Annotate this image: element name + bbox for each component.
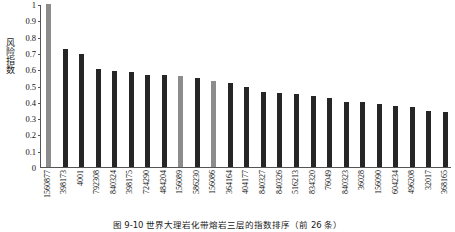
bar [79, 54, 84, 167]
bar [63, 49, 68, 167]
y-axis-tick-mark [38, 21, 41, 22]
x-axis-tick-slot: 840326 [277, 169, 282, 218]
x-axis-tick-label: 516213 [292, 170, 300, 194]
bar [162, 75, 167, 167]
y-axis-tick-labels: 10.90.80.70.60.50.40.30.20.10 [14, 0, 38, 168]
y-axis-tick-mark [38, 38, 41, 39]
y-axis-tick-mark [38, 119, 41, 120]
x-axis-tick-slot: 724290 [144, 169, 149, 218]
bar [360, 102, 365, 167]
x-axis-tick-label: 398173 [60, 170, 68, 194]
bar [426, 111, 431, 167]
x-axis-tick-label: 484204 [160, 170, 168, 194]
y-axis-tick-label: 0.4 [25, 98, 36, 107]
y-axis-tick-mark [38, 54, 41, 55]
x-axis-tick-label: 4001 [77, 170, 85, 186]
figure-caption: 图 9-10 世界大理岩化带熔岩三层的指数排序（前 26 条） [0, 220, 455, 231]
y-axis-tick-mark [38, 70, 41, 71]
x-axis-tick-slot: 156090 [377, 169, 382, 218]
x-axis-tick-slot: 368165 [443, 169, 448, 218]
y-axis-tick-label: 0.2 [25, 131, 36, 140]
x-axis-tick-label: 404177 [242, 170, 250, 194]
x-axis-tick-slot: 32017 [426, 169, 431, 218]
bar [311, 96, 316, 167]
bar [96, 69, 101, 167]
x-axis-tick-label: 1560877 [44, 170, 52, 198]
bar [277, 93, 282, 167]
x-axis-tick-label: 586230 [193, 170, 201, 194]
x-axis-tick-slot: 404177 [244, 169, 249, 218]
y-axis-tick-label: 0.9 [25, 17, 36, 26]
x-axis-tick-slot: 484204 [161, 169, 166, 218]
x-axis-tick-label: 156086 [209, 170, 217, 194]
figure-container: 风险指数 10.90.80.70.60.50.40.30.20.10 15608… [0, 0, 455, 232]
y-axis-tick-label: 0.7 [25, 49, 36, 58]
y-axis-tick-label: 0.5 [25, 82, 36, 91]
x-axis-tick-slot: 398173 [62, 169, 67, 218]
x-axis-tick-label: 604234 [392, 170, 400, 194]
bar [112, 71, 117, 167]
x-axis-tick-label: 840323 [342, 170, 350, 194]
x-axis-tick-label: 364164 [226, 170, 234, 194]
y-axis-tick-mark [38, 5, 41, 6]
bar [377, 104, 382, 167]
x-axis-tick-slot: 792308 [95, 169, 100, 218]
x-axis-tick-labels: 1560877398173400179230884032439817572429… [41, 169, 451, 218]
bar [46, 4, 51, 167]
y-axis-tick-mark [38, 135, 41, 136]
bar [145, 75, 150, 167]
x-axis-tick-slot: 1560877 [45, 169, 50, 218]
y-axis-tick-label: 0.6 [25, 66, 36, 75]
x-axis-tick-slot: 516213 [294, 169, 299, 218]
x-axis-tick-slot: 156086 [211, 169, 216, 218]
x-axis-tick-slot: 4001 [78, 169, 83, 218]
bar [443, 112, 448, 167]
x-axis-tick-slot: 840324 [111, 169, 116, 218]
bar [393, 106, 398, 167]
x-axis-tick-label: 32017 [425, 170, 433, 190]
x-axis-tick-slot: 586230 [194, 169, 199, 218]
bar [228, 83, 233, 167]
y-axis-tick-label: 1 [32, 1, 36, 10]
x-axis-tick-label: 834320 [309, 170, 317, 194]
x-axis-tick-label: 840327 [259, 170, 267, 194]
x-axis-tick-label: 496208 [408, 170, 416, 194]
x-axis-tick-label: 724290 [143, 170, 151, 194]
y-axis-tick-mark [38, 103, 41, 104]
y-axis-tick-label: 0 [32, 164, 36, 173]
x-axis-tick-label: 792308 [93, 170, 101, 194]
bar [344, 102, 349, 167]
bar [261, 92, 266, 167]
bar [178, 76, 183, 167]
bar-series [42, 5, 451, 167]
bar [195, 78, 200, 167]
x-axis-tick-label: 156090 [375, 170, 383, 194]
x-axis-tick-slot: 36028 [360, 169, 365, 218]
x-axis-tick-slot: 496208 [410, 169, 415, 218]
x-axis-tick-label: 156089 [176, 170, 184, 194]
y-axis-tick-label: 0.8 [25, 33, 36, 42]
bar [327, 98, 332, 167]
x-axis-tick-label: 398175 [126, 170, 134, 194]
x-axis-tick-slot: 156089 [178, 169, 183, 218]
bar [211, 81, 216, 167]
x-axis-tick-label: 840326 [276, 170, 284, 194]
x-axis-tick-slot: 364164 [227, 169, 232, 218]
x-axis-tick-label: 76049 [325, 170, 333, 190]
bar [244, 87, 249, 167]
bar [410, 107, 415, 167]
y-axis-tick-label: 0.1 [25, 147, 36, 156]
y-axis-tick-mark [38, 152, 41, 153]
y-axis-tick-mark [38, 87, 41, 88]
x-axis-tick-slot: 398175 [128, 169, 133, 218]
x-axis-tick-slot: 840323 [343, 169, 348, 218]
x-axis-tick-label: 36028 [358, 170, 366, 190]
bar [294, 94, 299, 167]
x-axis-tick-slot: 840327 [261, 169, 266, 218]
x-axis-tick-label: 368165 [441, 170, 449, 194]
y-axis-tick-label: 0.3 [25, 115, 36, 124]
x-axis-tick-slot: 76049 [327, 169, 332, 218]
plot-area [40, 5, 451, 168]
x-axis-tick-slot: 604234 [393, 169, 398, 218]
x-axis-tick-label: 840324 [110, 170, 118, 194]
